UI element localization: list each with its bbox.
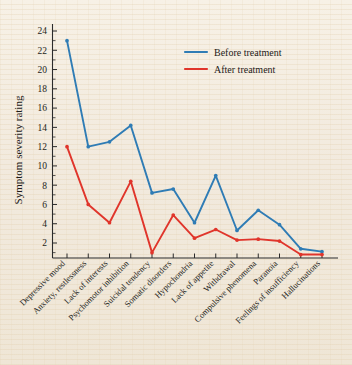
data-point <box>278 223 282 227</box>
y-axis-title: Symptom severity rating <box>12 95 24 204</box>
y-tick-label-8: 8 <box>42 181 47 191</box>
y-axis: 24681012141618202224 <box>38 24 58 258</box>
y-tick-label-6: 6 <box>42 200 47 210</box>
legend-label-after-treatment: After treatment <box>214 64 276 75</box>
data-point <box>320 253 324 257</box>
data-point <box>193 236 197 240</box>
data-point <box>235 238 239 242</box>
data-point <box>150 191 154 195</box>
y-tick-label-12: 12 <box>38 142 48 152</box>
line-chart: 24681012141618202224 Depressive moodAnxi… <box>0 0 352 365</box>
data-point <box>65 145 69 149</box>
data-point <box>256 208 260 212</box>
data-point <box>214 174 218 178</box>
data-point <box>299 247 303 251</box>
data-point <box>65 39 69 43</box>
data-point <box>256 237 260 241</box>
data-point <box>129 179 133 183</box>
data-point <box>214 228 218 232</box>
y-tick-label-24: 24 <box>38 26 48 36</box>
y-tick-label-16: 16 <box>38 103 48 113</box>
data-point <box>108 221 112 225</box>
y-tick-label-20: 20 <box>38 65 48 75</box>
data-point <box>235 229 239 233</box>
y-tick-label-22: 22 <box>38 46 48 56</box>
data-point <box>108 140 112 144</box>
data-point <box>129 124 133 128</box>
data-point <box>86 145 90 149</box>
y-tick-label-10: 10 <box>38 161 48 171</box>
data-point <box>171 187 175 191</box>
legend-label-before-treatment: Before treatment <box>214 47 282 58</box>
data-point <box>278 239 282 243</box>
data-point <box>171 213 175 217</box>
y-tick-label-4: 4 <box>42 219 47 229</box>
y-tick-label-18: 18 <box>38 84 48 94</box>
y-tick-label-2: 2 <box>42 238 47 248</box>
chart-canvas: 24681012141618202224 Depressive moodAnxi… <box>0 0 352 365</box>
data-point <box>150 251 154 255</box>
chart-legend: Before treatmentAfter treatment <box>185 47 282 75</box>
data-point <box>86 203 90 207</box>
data-series-group <box>65 39 324 257</box>
data-point <box>193 221 197 225</box>
data-point <box>299 253 303 257</box>
y-tick-label-14: 14 <box>38 123 48 133</box>
x-axis: Depressive moodAnxiety, restlessnessLack… <box>17 254 338 326</box>
